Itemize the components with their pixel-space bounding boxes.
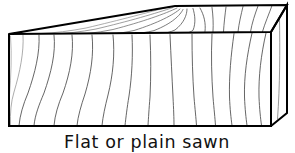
figure-caption: Flat or plain sawn [64,132,230,152]
flat-or-plain-sawn-figure: Flat or plain sawn [0,0,295,153]
front-face [9,32,271,126]
board-drawing-svg: Flat or plain sawn [0,0,295,153]
